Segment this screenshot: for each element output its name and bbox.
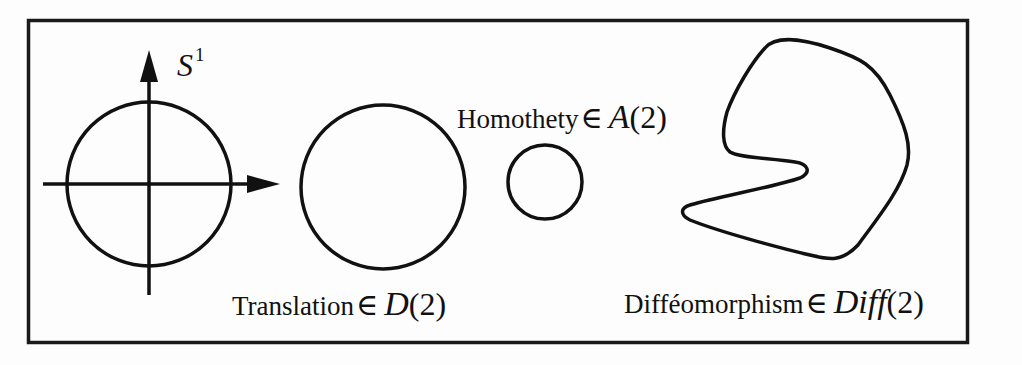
homothety-circle [508,145,582,219]
diffeomorphism-label: Difféomorphism∈Diff(2) [624,285,924,319]
arrow-right-icon [247,175,280,193]
diffeomorphism-shape [683,40,909,259]
unit-circle-with-axes [43,65,250,295]
arrow-up-icon [140,50,158,82]
homothety-label: Homothety∈A(2) [457,100,667,134]
translated-circle [301,105,465,269]
circle-label-s1: S1 [177,44,205,84]
translation-label: Translation∈D(2) [232,287,446,321]
